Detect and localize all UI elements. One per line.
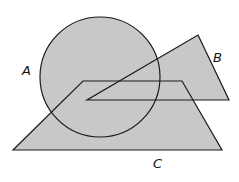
label-a: A [21,63,31,78]
diagram-canvas: A B C [0,0,239,182]
label-c: C [153,156,163,171]
label-b: B [213,50,222,65]
fill-layer [13,17,229,150]
